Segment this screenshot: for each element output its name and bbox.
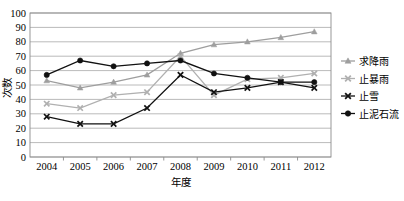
y-tick-label: 30 (16, 108, 27, 119)
y-tick-label: 50 (16, 80, 27, 91)
legend-label: 止雪 (359, 91, 379, 102)
x-tick-label: 2006 (103, 161, 124, 172)
x-tick-label: 2008 (170, 161, 191, 172)
x-tick-label: 2009 (203, 161, 224, 172)
data-point-circle (245, 75, 250, 80)
y-tick-label: 90 (16, 22, 27, 33)
y-tick-label: 40 (16, 94, 27, 105)
x-axis-tick-labels: 200420052006200720082009201020112012 (36, 161, 325, 172)
x-tick-label: 2010 (237, 161, 258, 172)
y-tick-label: 60 (16, 65, 27, 76)
y-tick-label: 80 (16, 36, 27, 47)
y-tick-label: 70 (16, 51, 27, 62)
x-tick-label: 2005 (70, 161, 91, 172)
y-axis-title: 次数 (1, 77, 13, 98)
y-tick-label: 20 (16, 123, 27, 134)
legend-label: 止暴雨 (359, 74, 389, 85)
x-tick-label: 2011 (271, 161, 292, 172)
chart-background (0, 0, 404, 201)
data-point-circle (345, 111, 350, 116)
data-point-circle (144, 61, 149, 66)
x-tick-label: 2004 (36, 161, 58, 172)
data-point-circle (111, 64, 116, 69)
data-point-circle (78, 58, 83, 63)
legend-label: 止泥石流 (359, 108, 399, 120)
y-tick-label: 10 (16, 137, 27, 148)
y-tick-label: 100 (10, 8, 26, 19)
data-point-circle (211, 71, 216, 76)
x-tick-label: 2012 (304, 161, 325, 172)
data-point-circle (312, 80, 317, 85)
y-tick-label: 0 (21, 152, 26, 163)
line-chart: 1009080706050403020100 20042005200620072… (0, 0, 404, 201)
data-point-circle (44, 72, 49, 77)
chart-svg: 1009080706050403020100 20042005200620072… (0, 0, 404, 201)
x-axis-title: 年度 (171, 176, 192, 188)
data-point-circle (178, 58, 183, 63)
data-point-circle (278, 80, 283, 85)
legend-label: 求降雨 (359, 55, 389, 67)
x-tick-label: 2007 (137, 161, 158, 172)
